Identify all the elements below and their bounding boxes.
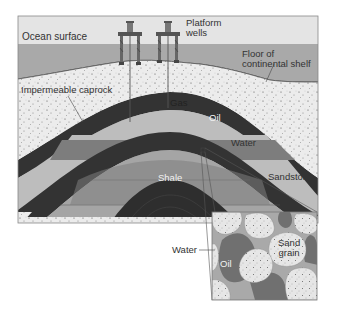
label-gas: Gas [170,98,187,108]
label-oil: Oil [209,113,221,123]
label-water: Water [231,138,256,148]
label-sandstone: Sandstone [268,172,313,182]
inset-label-water: Water [172,245,197,255]
pore-inset [212,212,318,300]
inset-label-sand-2: grain [278,248,300,258]
label-impermeable-caprock: Impermeable caprock [21,85,112,95]
label-shale: Shale [158,173,182,183]
reservoir-diagram [0,0,337,312]
inset-label-oil: Oil [220,259,232,269]
label-platform-wells: Platform wells [186,18,221,38]
label-floor-continental-shelf: Floor of continental shelf [242,49,311,69]
label-platform-wells-2: wells [186,28,221,38]
label-floor-2: continental shelf [242,59,311,69]
label-ocean-surface: Ocean surface [22,32,87,42]
inset-label-sand-grain: Sand grain [278,238,300,258]
